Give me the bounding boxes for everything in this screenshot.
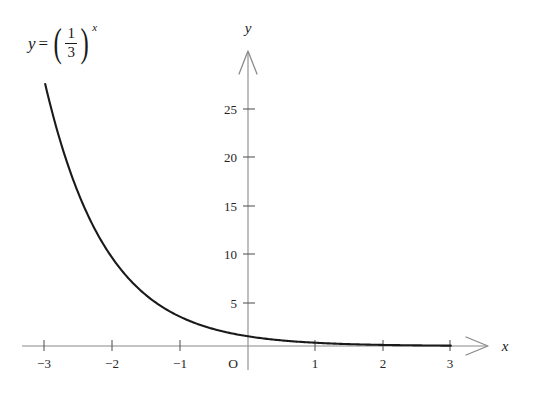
y-tick-label-25: 25 (224, 102, 237, 117)
y-tick-label-5: 5 (231, 296, 238, 311)
y-axis-label: y (243, 20, 252, 36)
x-tick-label-1: 1 (312, 356, 319, 371)
y-tick-label-20: 20 (224, 150, 237, 165)
x-tick-label--2: −2 (105, 356, 119, 371)
x-tick-label--1: −1 (173, 356, 187, 371)
y-tick-label-15: 15 (224, 199, 237, 214)
plot-canvas: −3 −2 −1 1 2 3 O 5 10 15 20 25 x y (0, 0, 538, 396)
x-axis-label: x (501, 338, 509, 354)
x-tick-label--3: −3 (37, 356, 51, 371)
x-tick-label-2: 2 (380, 356, 387, 371)
x-tick-label-3: 3 (447, 356, 454, 371)
y-tick-label-10: 10 (224, 247, 237, 262)
origin-label: O (228, 356, 238, 371)
exponential-decay-figure: y = ( 1 3 ) x −3 −2 − (0, 0, 538, 396)
